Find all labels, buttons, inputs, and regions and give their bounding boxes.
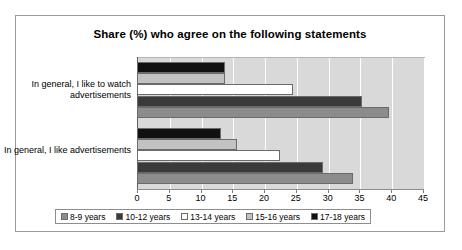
x-tick-label: 35 (347, 193, 371, 203)
x-tick-label: 40 (379, 193, 403, 203)
legend-label: 13-14 years (190, 212, 235, 222)
x-tick-label: 15 (220, 193, 244, 203)
legend-label: 10-12 years (125, 212, 170, 222)
gridline (424, 58, 425, 190)
legend-swatch (116, 213, 123, 220)
bar (137, 73, 225, 84)
x-tick-label: 45 (411, 193, 435, 203)
gridline (392, 58, 393, 190)
legend-item: 10-12 years (116, 212, 170, 222)
gridline (360, 58, 361, 190)
bar (137, 128, 221, 139)
bar (137, 173, 353, 184)
legend-swatch (61, 213, 68, 220)
category-label: In general, I like advertisements (0, 145, 131, 156)
x-tick-label: 30 (316, 193, 340, 203)
bar (137, 107, 389, 118)
x-tick-label: 5 (157, 193, 181, 203)
legend-label: 17-18 years (320, 212, 365, 222)
x-tick-label: 25 (284, 193, 308, 203)
legend-swatch (181, 213, 188, 220)
x-axis-line (137, 189, 424, 190)
x-tick-label: 0 (125, 193, 149, 203)
x-tick-label: 10 (189, 193, 213, 203)
gridline (329, 58, 330, 190)
legend-item: 15-16 years (246, 212, 300, 222)
bar (137, 62, 225, 73)
category-label: In general, I like to watch advertisemen… (0, 79, 131, 101)
x-tick-label: 20 (252, 193, 276, 203)
bar (137, 96, 362, 107)
bar (137, 162, 323, 173)
chart-legend: 8-9 years10-12 years13-14 years15-16 yea… (55, 209, 371, 224)
chart-frame: Share (%) who agree on the following sta… (15, 15, 445, 232)
bar (137, 150, 280, 161)
legend-item: 13-14 years (181, 212, 235, 222)
legend-swatch (311, 213, 318, 220)
legend-label: 8-9 years (70, 212, 105, 222)
bar (137, 139, 237, 150)
legend-item: 17-18 years (311, 212, 365, 222)
chart-title: Share (%) who agree on the following sta… (16, 28, 444, 40)
legend-swatch (246, 213, 253, 220)
bar (137, 84, 293, 95)
legend-label: 15-16 years (255, 212, 300, 222)
legend-item: 8-9 years (61, 212, 105, 222)
